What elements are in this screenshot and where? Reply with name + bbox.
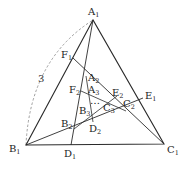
- arc-length-label: 3: [38, 73, 44, 84]
- segment-C1F1: [73, 58, 164, 144]
- label-B1: B1: [9, 143, 21, 156]
- label-F2: F2: [69, 84, 80, 97]
- label-D1: D1: [64, 148, 76, 161]
- geometry-diagram: A1 B1 C1 D1 E1 F1 A2 B2 C2 D2 E2 F2 A3 B…: [0, 0, 188, 169]
- label-B3: B3: [79, 105, 91, 118]
- label-F1: F1: [61, 49, 72, 62]
- label-C2: C2: [123, 98, 135, 111]
- label-C1: C1: [167, 144, 179, 157]
- label-D2: D2: [89, 123, 101, 136]
- ellipsis-marker: …: [90, 95, 100, 106]
- label-A1: A1: [87, 6, 99, 19]
- label-E1: E1: [145, 90, 156, 103]
